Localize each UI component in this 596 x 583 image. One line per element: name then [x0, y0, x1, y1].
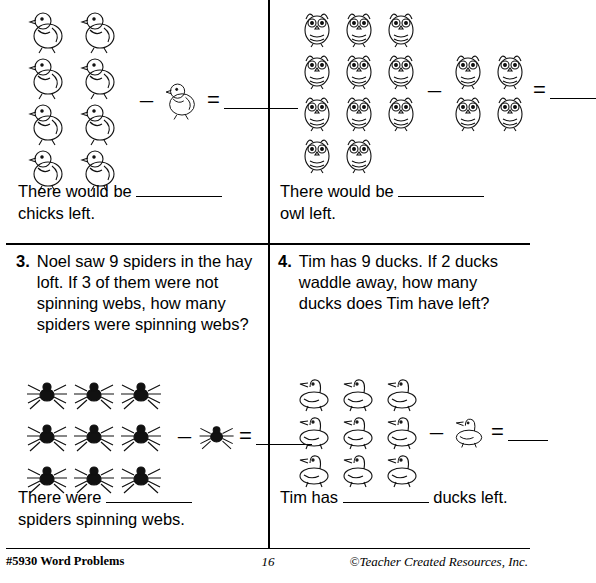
problem-number: 3. — [16, 251, 30, 335]
problem-3-answer-sentence: There were spiders spinning webs. — [6, 486, 204, 530]
answer-blank-inline[interactable] — [343, 488, 429, 503]
duck-icon — [336, 375, 380, 413]
problem-3: 3. Noel saw 9 spiders in the hay loft. I… — [6, 243, 268, 548]
owl-icon — [296, 48, 338, 90]
chick-icon — [22, 54, 74, 100]
equals-sign: = — [205, 89, 224, 111]
spider-icon — [197, 417, 237, 455]
spider-icon — [118, 373, 165, 415]
owl-icon — [338, 132, 380, 174]
problem-2-answer-sentence: There would be owl left. — [268, 180, 496, 224]
answer-blank[interactable] — [550, 82, 596, 99]
answer-suffix: spiders spinning webs. — [18, 510, 185, 528]
duck-icon — [292, 375, 336, 413]
chick-icon — [74, 8, 126, 54]
spider-icon — [24, 373, 71, 415]
answer-blank-inline[interactable] — [136, 182, 222, 197]
problem-number: 4. — [278, 251, 292, 314]
chick-icon — [159, 79, 205, 121]
owl-icon — [489, 48, 531, 90]
owl-icon — [296, 90, 338, 132]
chick-icon — [74, 100, 126, 146]
owl-icon — [447, 90, 489, 132]
answer-blank[interactable] — [508, 424, 548, 441]
problem-4-art: – = — [292, 375, 548, 489]
problem-grid: – = There would be chicks left. — [6, 0, 530, 548]
equals-sign: = — [489, 421, 508, 443]
owl-icon — [296, 6, 338, 48]
owl-icon — [338, 6, 380, 48]
duck-icon — [292, 413, 336, 451]
problem-1: – = There would be chicks left. — [6, 0, 268, 243]
spider-icon — [118, 415, 165, 457]
minus-sign: – — [424, 419, 449, 445]
answer-blank-inline[interactable] — [398, 182, 484, 197]
duck-icon — [336, 413, 380, 451]
answer-prefix: Tim has — [280, 488, 338, 506]
minus-sign: – — [134, 87, 159, 113]
spider-icon — [71, 415, 118, 457]
owl-icon — [380, 90, 422, 132]
answer-prefix: There would be — [280, 182, 394, 200]
footer-divider — [6, 548, 530, 549]
problem-1-answer-sentence: There would be chicks left. — [6, 180, 234, 224]
answer-prefix: There were — [18, 488, 101, 506]
problem-2-art: – = — [296, 6, 596, 174]
problem-4-text: 4. Tim has 9 ducks. If 2 ducks waddle aw… — [268, 243, 530, 314]
duck-icon — [380, 451, 424, 489]
answer-suffix: owl left. — [280, 204, 336, 222]
problem-1-art: – = — [22, 8, 298, 192]
answer-suffix: chicks left. — [18, 204, 95, 222]
page-footer: #5930 Word Problems 16 ©Teacher Created … — [0, 551, 536, 583]
spider-icon — [24, 415, 71, 457]
answer-prefix: There would be — [18, 182, 132, 200]
owl-icon — [380, 6, 422, 48]
problem-4: 4. Tim has 9 ducks. If 2 ducks waddle aw… — [268, 243, 530, 548]
owl-icon — [489, 90, 531, 132]
chick-icon — [22, 100, 74, 146]
owl-icon — [338, 90, 380, 132]
duck-icon — [336, 451, 380, 489]
problem-4-answer-sentence: Tim has ducks left. — [268, 486, 520, 508]
owl-icon — [338, 48, 380, 90]
answer-blank-inline[interactable] — [106, 488, 192, 503]
problem-2: – = There would be owl left. — [268, 0, 530, 243]
problem-3-text: 3. Noel saw 9 spiders in the hay loft. I… — [6, 243, 268, 335]
owl-icon — [296, 132, 338, 174]
problem-question: Tim has 9 ducks. If 2 ducks waddle away,… — [299, 251, 518, 314]
chick-icon — [74, 54, 126, 100]
answer-suffix: ducks left. — [433, 488, 507, 506]
duck-icon — [380, 413, 424, 451]
chick-icon — [22, 8, 74, 54]
problem-question: Noel saw 9 spiders in the hay loft. If 3… — [37, 251, 256, 335]
minus-sign: – — [172, 423, 197, 449]
minus-sign: – — [422, 77, 447, 103]
footer-right: ©Teacher Created Resources, Inc. — [350, 554, 528, 570]
owl-icon — [380, 48, 422, 90]
owl-icon — [447, 48, 489, 90]
duck-icon — [380, 375, 424, 413]
equals-sign: = — [237, 425, 256, 447]
equals-sign: = — [531, 79, 550, 101]
spider-icon — [71, 373, 118, 415]
duck-icon — [292, 451, 336, 489]
duck-icon — [449, 414, 489, 450]
